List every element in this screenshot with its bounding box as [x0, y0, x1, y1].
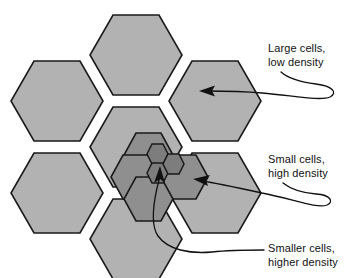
annotation-large-cells-line1: Large cells, — [268, 41, 325, 55]
cell-hierarchy-diagram: Large cells, low density Small cells, hi… — [0, 0, 354, 278]
annotation-small-cells-line2: high density — [268, 166, 328, 180]
large-cell-upper-left[interactable] — [11, 61, 103, 141]
small-cell-right[interactable] — [163, 154, 184, 174]
large-cell-top[interactable] — [90, 15, 182, 95]
annotation-smaller-cells-line1: Smaller cells, — [268, 241, 338, 255]
annotation-small-cells-line1: Small cells, — [268, 152, 328, 166]
annotation-large-cells: Large cells, low density — [268, 41, 325, 69]
large-cell-lower-left[interactable] — [11, 153, 103, 233]
annotation-large-cells-line2: low density — [268, 55, 325, 69]
annotation-smaller-cells-line2: higher density — [268, 255, 338, 269]
annotation-smaller-cells: Smaller cells, higher density — [268, 241, 338, 269]
annotation-small-cells: Small cells, high density — [268, 152, 328, 180]
large-cell-upper-right[interactable] — [169, 61, 261, 141]
